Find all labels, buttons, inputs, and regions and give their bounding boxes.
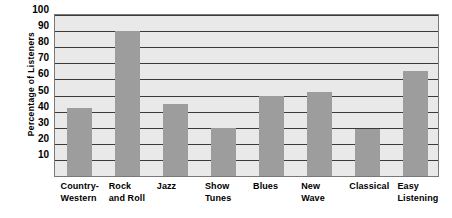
- y-axis-tick-label: 30: [16, 118, 49, 128]
- bar: [67, 108, 92, 176]
- bar: [211, 128, 236, 176]
- y-axis-tick-labels: 100908070605040302010: [16, 9, 49, 177]
- x-axis-tick-label-line: Tunes: [205, 193, 271, 205]
- x-axis-tick-label: EasyListening: [397, 181, 452, 204]
- bars-layer: [55, 15, 438, 176]
- bar: [403, 71, 428, 176]
- x-axis-tick-label-line: Wave: [301, 193, 367, 205]
- x-axis-tick-label-line: Listening: [397, 193, 452, 205]
- y-axis-tick-label: 80: [16, 37, 49, 47]
- y-axis-tick-label: 20: [16, 134, 49, 144]
- bar: [355, 129, 380, 176]
- y-axis-tick-label: 10: [16, 150, 49, 160]
- bar: [259, 96, 284, 177]
- bar: [307, 92, 332, 176]
- x-axis-tick-label-line: and Roll: [109, 193, 175, 205]
- y-axis-tick-label: 90: [16, 21, 49, 31]
- y-axis-tick-label: 50: [16, 86, 49, 96]
- plot-area: [54, 14, 439, 177]
- x-axis-tick-label-line: Easy: [397, 181, 452, 193]
- x-axis-tick-labels: Country-WesternRockand RollJazzShowTunes…: [54, 181, 439, 215]
- y-axis-tick-label: 100: [16, 5, 49, 15]
- y-axis-tick-label: 40: [16, 102, 49, 112]
- y-axis-tick-label: 60: [16, 69, 49, 79]
- y-axis-tick-label: 70: [16, 53, 49, 63]
- bar: [115, 31, 140, 176]
- bar: [163, 104, 188, 176]
- bar-chart-figure: Percentage of Listeners 1009080706050403…: [0, 0, 452, 218]
